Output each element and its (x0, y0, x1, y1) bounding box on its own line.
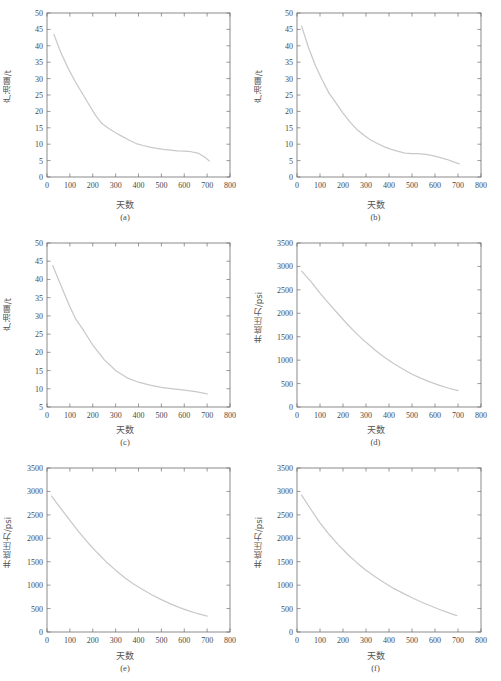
svg-text:300: 300 (360, 411, 372, 420)
panel-e-x-axis-label: 天数 (0, 649, 250, 662)
svg-text:800: 800 (224, 411, 236, 420)
svg-text:15: 15 (285, 124, 293, 133)
panel-a-plot-area: 0100200300400500600700800051015202530354… (0, 0, 250, 230)
panel-e-svg: 0100200300400500600700800050010001500200… (0, 455, 250, 681)
svg-text:600: 600 (429, 411, 441, 420)
svg-text:10: 10 (35, 385, 43, 394)
svg-text:400: 400 (133, 636, 145, 645)
panel-f-x-axis-label: 天数 (250, 649, 501, 662)
figure-panel-grid: 0100200300400500600700800051015202530354… (0, 0, 501, 681)
svg-text:400: 400 (383, 636, 395, 645)
svg-text:35: 35 (35, 294, 43, 303)
svg-text:500: 500 (155, 411, 167, 420)
svg-text:800: 800 (224, 636, 236, 645)
svg-text:50: 50 (35, 9, 43, 18)
svg-text:30: 30 (35, 312, 43, 321)
panel-c-plot-area: 0100200300400500600700800510152025303540… (0, 230, 250, 455)
svg-text:0: 0 (45, 181, 49, 190)
panel-a-caption: (a) (0, 212, 250, 222)
panel-b-y-axis-label: 产油量/t (253, 70, 265, 103)
svg-text:400: 400 (133, 411, 145, 420)
svg-text:200: 200 (337, 411, 349, 420)
panel-b-caption: (b) (250, 212, 501, 222)
svg-text:700: 700 (201, 636, 213, 645)
svg-text:50: 50 (35, 239, 43, 248)
svg-text:2500: 2500 (277, 286, 293, 295)
svg-text:0: 0 (39, 173, 43, 182)
panel-c-y-axis-label: 产油量/t (2, 298, 14, 331)
panel-c-x-axis-label: 天数 (0, 423, 250, 436)
svg-text:35: 35 (285, 58, 293, 67)
svg-text:2000: 2000 (277, 534, 293, 543)
svg-text:40: 40 (285, 42, 293, 51)
panel-b-svg: 0100200300400500600700800051015202530354… (250, 0, 501, 230)
panel-e: 0100200300400500600700800050010001500200… (0, 455, 250, 681)
svg-text:1000: 1000 (277, 581, 293, 590)
svg-text:300: 300 (360, 636, 372, 645)
svg-text:5: 5 (39, 157, 43, 166)
svg-text:500: 500 (406, 411, 418, 420)
svg-text:400: 400 (133, 181, 145, 190)
svg-text:0: 0 (45, 636, 49, 645)
svg-text:700: 700 (452, 411, 464, 420)
svg-text:100: 100 (314, 411, 326, 420)
svg-text:800: 800 (475, 411, 487, 420)
panel-d-plot-area: 0100200300400500600700800050010001500200… (250, 230, 501, 455)
svg-text:500: 500 (281, 380, 293, 389)
svg-text:25: 25 (285, 91, 293, 100)
svg-text:200: 200 (337, 636, 349, 645)
svg-text:1500: 1500 (27, 558, 43, 567)
svg-text:200: 200 (87, 636, 99, 645)
panel-d-y-axis-label: 井底压力/psi (253, 292, 265, 343)
svg-text:0: 0 (39, 628, 43, 637)
panel-f-caption: (f) (250, 663, 501, 673)
svg-text:5: 5 (39, 403, 43, 412)
svg-text:800: 800 (475, 181, 487, 190)
svg-text:40: 40 (35, 42, 43, 51)
svg-text:1000: 1000 (27, 581, 43, 590)
panel-a: 0100200300400500600700800051015202530354… (0, 0, 250, 230)
panel-c-caption: (c) (0, 437, 250, 447)
svg-text:800: 800 (475, 636, 487, 645)
svg-text:3000: 3000 (27, 487, 43, 496)
svg-text:700: 700 (452, 181, 464, 190)
svg-text:600: 600 (178, 411, 190, 420)
panel-f-plot-area: 0100200300400500600700800050010001500200… (250, 455, 501, 681)
svg-text:45: 45 (35, 25, 43, 34)
svg-text:300: 300 (110, 411, 122, 420)
svg-text:600: 600 (178, 636, 190, 645)
svg-text:200: 200 (337, 181, 349, 190)
svg-text:15: 15 (35, 367, 43, 376)
svg-text:100: 100 (64, 411, 76, 420)
svg-text:400: 400 (383, 181, 395, 190)
panel-b-plot-area: 0100200300400500600700800051015202530354… (250, 0, 501, 230)
panel-a-x-axis-label: 天数 (0, 198, 250, 211)
svg-text:600: 600 (429, 636, 441, 645)
svg-text:50: 50 (285, 9, 293, 18)
svg-text:0: 0 (289, 403, 293, 412)
svg-text:0: 0 (289, 173, 293, 182)
svg-text:10: 10 (35, 140, 43, 149)
panel-d: 0100200300400500600700800050010001500200… (250, 230, 501, 455)
svg-text:20: 20 (35, 348, 43, 357)
panel-e-y-axis-label: 井底压力/psi (2, 517, 14, 568)
svg-text:3500: 3500 (277, 239, 293, 248)
svg-text:700: 700 (201, 411, 213, 420)
svg-text:3500: 3500 (277, 464, 293, 473)
svg-text:0: 0 (295, 636, 299, 645)
panel-d-caption: (d) (250, 437, 501, 447)
svg-text:100: 100 (314, 181, 326, 190)
svg-text:700: 700 (452, 636, 464, 645)
panel-b-x-axis-label: 天数 (250, 198, 501, 211)
svg-text:1000: 1000 (277, 356, 293, 365)
svg-text:1500: 1500 (277, 558, 293, 567)
svg-text:2000: 2000 (27, 534, 43, 543)
panel-a-y-axis-label: 产油量/t (2, 70, 14, 103)
panel-e-plot-area: 0100200300400500600700800050010001500200… (0, 455, 250, 681)
svg-text:300: 300 (110, 181, 122, 190)
svg-text:5: 5 (289, 157, 293, 166)
svg-text:400: 400 (383, 411, 395, 420)
svg-text:100: 100 (64, 181, 76, 190)
svg-text:15: 15 (35, 124, 43, 133)
svg-text:200: 200 (87, 411, 99, 420)
